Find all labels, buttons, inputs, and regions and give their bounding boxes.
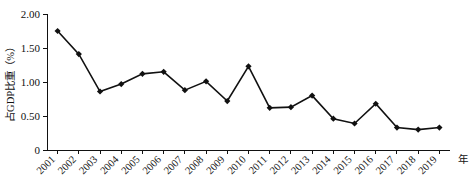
data-series-line <box>58 31 440 130</box>
y-tick-label: 0.50 <box>21 110 41 122</box>
x-tick-label: 2011 <box>247 154 269 176</box>
x-tick-label: 2003 <box>77 154 100 177</box>
y-axis-ticks: 00.501.001.502.00 <box>21 8 47 156</box>
x-tick-label: 2014 <box>310 153 333 176</box>
x-tick-label: 2019 <box>416 154 439 177</box>
x-tick-label: 2013 <box>289 154 312 177</box>
data-point-marker <box>139 71 145 77</box>
x-axis-unit-label: 年 <box>458 153 468 165</box>
y-tick-label: 2.00 <box>21 8 41 20</box>
x-tick-label: 2002 <box>56 154 79 177</box>
x-tick-label: 2018 <box>395 154 418 177</box>
x-tick-label: 2007 <box>162 154 185 177</box>
y-tick-label: 1.50 <box>21 42 41 54</box>
y-tick-label: 1.00 <box>21 76 41 88</box>
x-tick-label: 2008 <box>183 154 206 177</box>
data-point-marker <box>415 127 421 133</box>
x-tick-label: 2017 <box>374 154 397 177</box>
data-point-marker <box>436 124 442 130</box>
x-tick-label: 2015 <box>331 154 354 177</box>
x-tick-label: 2001 <box>34 154 57 177</box>
x-tick-label: 2010 <box>225 154 248 177</box>
data-point-marker <box>118 81 124 87</box>
data-point-marker <box>288 104 294 110</box>
clipped-caption-strip <box>0 184 476 189</box>
data-point-marker <box>267 105 273 111</box>
y-axis-title-text: 占GDP比重（%） <box>4 42 16 122</box>
x-tick-label: 2016 <box>353 154 376 177</box>
data-point-marker <box>97 88 103 94</box>
x-tick-label: 2006 <box>140 154 163 177</box>
x-tick-label: 2009 <box>204 154 227 177</box>
chart-figure: 占GDP比重（%） 00.501.001.502.00 200120022003… <box>0 0 476 189</box>
x-tick-label: 2005 <box>119 154 142 177</box>
line-chart-plot: 占GDP比重（%） 00.501.001.502.00 200120022003… <box>0 0 476 189</box>
x-tick-label: 2012 <box>268 154 291 177</box>
x-tick-label: 2004 <box>98 153 121 176</box>
x-axis-ticks: 2001200220032004200520062007200820092010… <box>34 150 439 176</box>
y-tick-label: 0 <box>35 144 41 156</box>
y-axis-title: 占GDP比重（%） <box>4 42 16 122</box>
data-point-markers <box>55 28 443 133</box>
